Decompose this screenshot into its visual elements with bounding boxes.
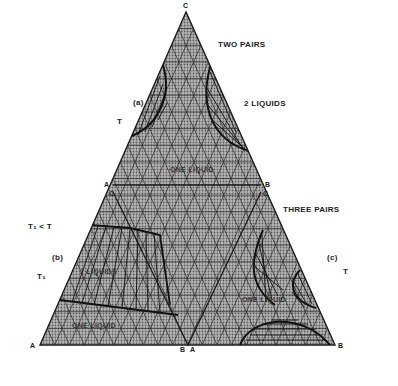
panel-a-2-liquids: 2 LIQUIDS	[244, 99, 286, 108]
vertex-b-label: B	[338, 342, 343, 349]
bottom-marker-b: B	[180, 346, 185, 353]
edge-marker-c-right: C	[263, 190, 268, 197]
panel-c-temp: T	[343, 267, 348, 276]
panel-b-temp: T₁	[37, 272, 46, 281]
ternary-diagram	[0, 0, 398, 386]
panel-a-temp: T	[117, 117, 122, 126]
panel-b-one-liquid: ONE LIQUID	[72, 322, 116, 329]
three-pairs-label: THREE PAIRS	[283, 205, 340, 214]
panel-b-2-liquids: 2 LIQUIDS	[80, 268, 117, 275]
panel-c-one-liquid: ONE LIQUID	[242, 296, 286, 303]
panel-c-tag: (c)	[327, 253, 338, 262]
edge-marker-b-right: B	[265, 181, 270, 188]
bottom-marker-a: A	[190, 346, 195, 353]
panel-b-temp-relation: T₁ < T	[28, 222, 52, 231]
panel-a-tag: (a)	[133, 98, 144, 107]
edge-marker-c-left: C	[109, 190, 114, 197]
panel-a-one-liquid: ONE LIQUID	[170, 166, 214, 173]
edge-marker-a-left: A	[104, 181, 109, 188]
two-pairs-label: TWO PAIRS	[218, 40, 265, 49]
panel-b-tag: (b)	[52, 253, 63, 262]
vertex-a-label: A	[30, 342, 35, 349]
vertex-c-label: C	[183, 2, 188, 9]
